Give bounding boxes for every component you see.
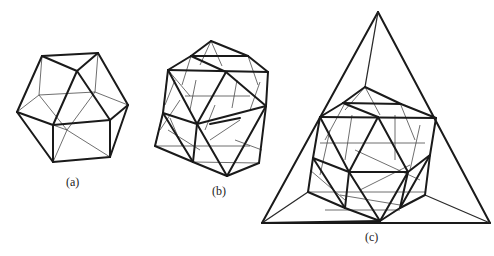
polyhedron-b	[155, 41, 268, 176]
polyhedron-a	[17, 53, 128, 162]
polyhedron-c	[262, 12, 490, 223]
figure-canvas	[0, 0, 494, 256]
panel-label-a: (a)	[66, 175, 79, 190]
panel-label-c: (c)	[365, 230, 378, 245]
panel-label-b: (b)	[212, 184, 226, 199]
